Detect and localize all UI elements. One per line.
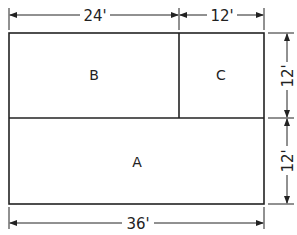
dimension-12ft-top: 12' [210, 7, 233, 25]
dimension-12ft-right-lower: 12' [279, 149, 297, 172]
floor-plan-diagram: B C A 24' 12' 12' 12' 36' [0, 0, 297, 235]
dimension-24ft: 24' [83, 7, 106, 25]
region-b-label: B [89, 67, 99, 83]
region-c-label: C [216, 67, 226, 83]
dimension-12ft-right-upper: 12' [279, 64, 297, 87]
dimension-36ft: 36' [126, 215, 149, 233]
region-a-label: A [132, 154, 142, 170]
